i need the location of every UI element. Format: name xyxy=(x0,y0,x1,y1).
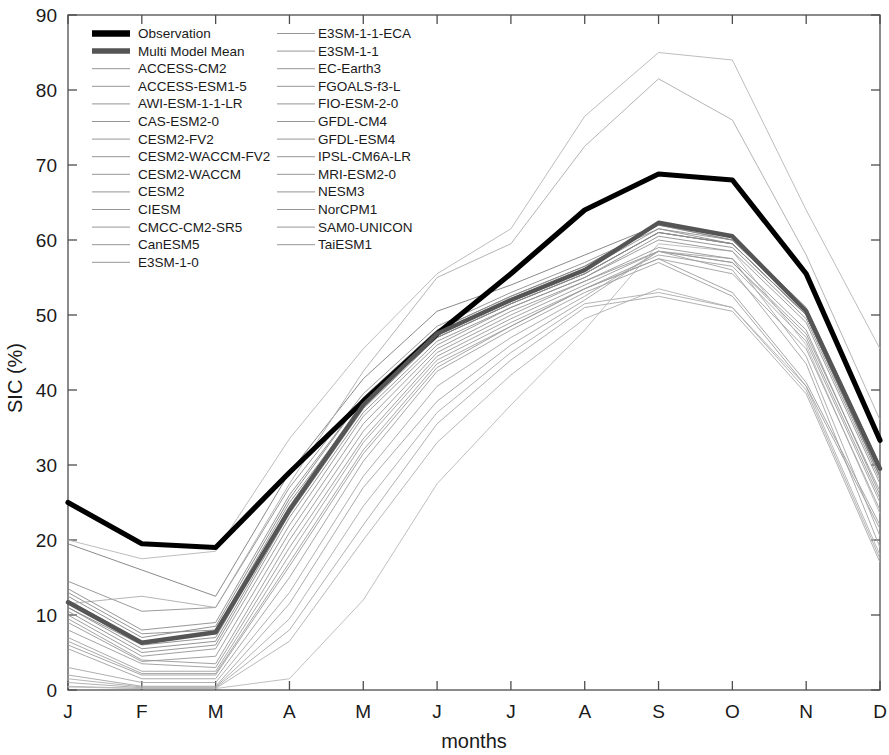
legend-label-norcpm1: NorCPM1 xyxy=(318,202,377,217)
x-tick-label: M xyxy=(208,701,224,722)
legend-label-gfdl-cm4: GFDL-CM4 xyxy=(318,114,387,129)
legend-label-ec-earth3: EC-Earth3 xyxy=(318,61,381,76)
series-line-gfdl-cm4 xyxy=(68,263,880,679)
legend-label-e3sm-1-1-eca: E3SM-1-1-ECA xyxy=(318,26,411,41)
y-axis-title: SIC (%) xyxy=(4,343,26,413)
chart-canvas: 0102030405060708090 JFMAMJJASOND SIC (%)… xyxy=(0,0,889,755)
legend-label-ciesm: CIESM xyxy=(138,202,181,217)
series-line-nesm3 xyxy=(68,293,880,688)
series-line-norcpm1 xyxy=(68,233,880,646)
legend-label-e3sm-1-1: E3SM-1-1 xyxy=(318,44,379,59)
y-tick-label: 0 xyxy=(46,680,57,701)
legend-label-cesm2: CESM2 xyxy=(138,184,185,199)
legend-label-cesm2-waccm-fv2: CESM2-WACCM-FV2 xyxy=(138,149,270,164)
series-line-gfdl-esm4 xyxy=(68,225,880,630)
legend-label-fgoals-f3-l: FGOALS-f3-L xyxy=(318,79,401,94)
series-line-ec-earth3 xyxy=(68,251,880,667)
legend-label-nesm3: NESM3 xyxy=(318,184,365,199)
y-tick-label: 20 xyxy=(36,530,57,551)
legend-label-mri-esm2-0: MRI-ESM2-0 xyxy=(318,167,396,182)
series-line-cesm2-waccm xyxy=(68,233,880,649)
x-axis-title: months xyxy=(441,730,507,752)
series-line-multi-model-mean xyxy=(68,223,880,643)
y-tick-label: 10 xyxy=(36,605,57,626)
legend: ObservationMulti Model MeanACCESS-CM2ACC… xyxy=(92,26,413,270)
x-tick-label: J xyxy=(506,701,516,722)
series-line-cesm2-waccm-fv2 xyxy=(68,229,880,642)
x-axis-tick-labels: JFMAMJJASOND xyxy=(63,701,887,722)
legend-label-taiesm1: TaiESM1 xyxy=(318,237,372,252)
x-tick-label: S xyxy=(652,701,665,722)
legend-label-cas-esm2-0: CAS-ESM2-0 xyxy=(138,114,219,129)
legend-label-sam0-unicon: SAM0-UNICON xyxy=(318,220,413,235)
series-line-canesm5 xyxy=(68,296,880,688)
series-line-ciesm xyxy=(68,259,880,675)
y-tick-label: 50 xyxy=(36,305,57,326)
series-line-e3sm-1-0 xyxy=(68,289,880,689)
y-tick-label: 90 xyxy=(36,5,57,26)
legend-label-awi-esm-1-1-lr: AWI-ESM-1-1-LR xyxy=(138,96,243,111)
y-tick-label: 70 xyxy=(36,155,57,176)
legend-label-observation: Observation xyxy=(138,26,211,41)
series-line-access-cm2 xyxy=(68,225,880,596)
x-tick-label: O xyxy=(725,701,740,722)
legend-label-canesm5: CanESM5 xyxy=(138,237,200,252)
x-tick-label: N xyxy=(799,701,813,722)
x-tick-label: A xyxy=(578,701,591,722)
y-tick-label: 30 xyxy=(36,455,57,476)
legend-label-e3sm-1-0: E3SM-1-0 xyxy=(138,255,199,270)
series-line-fio-esm-2-0 xyxy=(68,244,880,689)
model-series-group xyxy=(68,53,880,689)
sic-seasonal-cycle-figure: 0102030405060708090 JFMAMJJASOND SIC (%)… xyxy=(0,0,889,755)
legend-label-cmcc-cm2-sr5: CMCC-CM2-SR5 xyxy=(138,220,242,235)
legend-label-fio-esm-2-0: FIO-ESM-2-0 xyxy=(318,96,398,111)
legend-label-cesm2-waccm: CESM2-WACCM xyxy=(138,167,241,182)
y-tick-label: 80 xyxy=(36,80,57,101)
legend-label-gfdl-esm4: GFDL-ESM4 xyxy=(318,132,396,147)
y-axis-tick-labels: 0102030405060708090 xyxy=(36,5,57,701)
legend-label-access-cm2: ACCESS-CM2 xyxy=(138,61,227,76)
y-tick-label: 40 xyxy=(36,380,57,401)
x-tick-label: F xyxy=(136,701,148,722)
legend-label-multi-model-mean: Multi Model Mean xyxy=(138,44,245,59)
x-tick-label: D xyxy=(873,701,887,722)
legend-label-ipsl-cm6a-lr: IPSL-CM6A-LR xyxy=(318,149,411,164)
legend-label-cesm2-fv2: CESM2-FV2 xyxy=(138,132,214,147)
x-tick-label: J xyxy=(432,701,442,722)
y-tick-label: 60 xyxy=(36,230,57,251)
x-tick-label: J xyxy=(63,701,73,722)
x-tick-label: M xyxy=(355,701,371,722)
legend-label-access-esm1-5: ACCESS-ESM1-5 xyxy=(138,79,247,94)
x-tick-label: A xyxy=(283,701,296,722)
